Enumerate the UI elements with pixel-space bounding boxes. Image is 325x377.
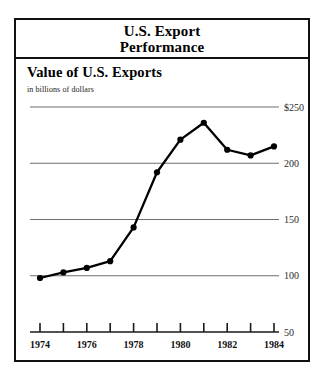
data-point [131, 224, 137, 230]
data-point [37, 275, 43, 281]
plot-area: $25020015010050 197419761978198019821984 [16, 20, 312, 364]
y-axis-tick-label: 50 [284, 327, 294, 338]
data-point [271, 143, 277, 149]
data-point [224, 147, 230, 153]
data-point [201, 120, 207, 126]
y-axis-tick-label: 150 [284, 214, 299, 225]
line-chart-svg: $25020015010050 197419761978198019821984 [16, 20, 312, 364]
data-point [154, 169, 160, 175]
x-axis-tick-label: 1984 [264, 339, 284, 350]
y-axis-tick-label: 200 [284, 158, 299, 169]
x-axis-tick-label: 1980 [170, 339, 190, 350]
gridlines-group [30, 107, 279, 276]
y-axis-tick-label: 100 [284, 270, 299, 281]
x-axis-tick-label: 1974 [30, 339, 50, 350]
data-point [60, 269, 66, 275]
chart-figure: U.S. Export Performance Value of U.S. Ex… [14, 18, 310, 362]
x-axis-group [30, 323, 279, 332]
exports-line-series [40, 123, 274, 278]
x-axis-labels-group: 197419761978198019821984 [30, 339, 284, 350]
x-axis-tick-label: 1982 [217, 339, 237, 350]
data-point [84, 265, 90, 271]
x-axis-tick-label: 1976 [77, 339, 97, 350]
y-axis-labels-group: $25020015010050 [284, 102, 304, 338]
x-axis-tick-label: 1978 [124, 339, 144, 350]
data-point [248, 152, 254, 158]
data-point [107, 258, 113, 264]
exports-data-points-group [37, 120, 277, 281]
data-point [177, 137, 183, 143]
y-axis-tick-label: $250 [284, 102, 304, 113]
